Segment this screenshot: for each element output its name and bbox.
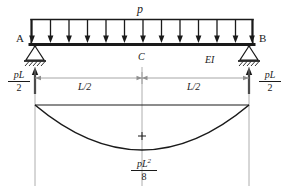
load-arrow [214,20,220,43]
node-label-c: C [138,52,145,62]
reaction-value-left: pL 2 [8,70,30,93]
max-moment-numerator-base: pL [137,158,148,169]
reaction-left-numerator: pL [8,70,30,81]
load-arrow [103,20,109,43]
dimension-label-right-span: L/2 [187,82,200,92]
support-left-pin [24,44,46,66]
load-arrow [85,20,91,43]
max-moment-value: pL2 8 [131,158,157,182]
load-arrow [122,20,128,43]
max-moment-denominator: 8 [131,171,157,182]
max-moment-exponent: 2 [148,157,152,165]
reaction-right-denominator: 2 [259,82,281,93]
reaction-value-right: pL 2 [259,70,281,93]
load-arrow [177,20,183,43]
moment-sign-plus [138,132,146,140]
node-label-a: A [16,33,24,44]
distributed-load-arrows [29,20,255,43]
load-arrow [159,20,165,43]
support-right-pin [238,44,260,66]
max-moment-numerator: pL2 [131,158,157,170]
reaction-left-denominator: 2 [8,82,30,93]
load-arrow [48,20,54,43]
load-arrow [233,20,239,43]
reaction-right-numerator: pL [259,70,281,81]
node-label-b: B [259,33,266,44]
load-symbol-label: p [137,3,143,15]
load-arrow [66,20,72,43]
dimension-line [35,72,249,84]
load-arrow [196,20,202,43]
load-arrow [140,20,146,43]
beam-moment-diagram-figure: A B C p EI L/2 L/2 pL 2 pL 2 pL2 8 [0,0,285,191]
dimension-label-left-span: L/2 [78,82,91,92]
stiffness-label-ei: EI [205,55,214,65]
